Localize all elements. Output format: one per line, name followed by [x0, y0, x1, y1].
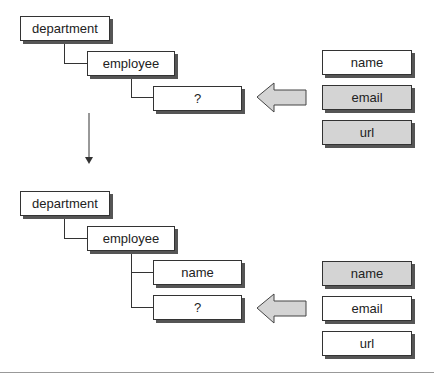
candidate-email: email — [322, 85, 412, 110]
tree-node-unknown: ? — [153, 295, 242, 320]
tree-node-name: name — [153, 260, 242, 285]
left-arrow-icon — [257, 83, 306, 112]
left-arrow-icon — [257, 294, 306, 323]
tree-node-department: department — [20, 191, 110, 216]
tree-node-employee: employee — [87, 51, 175, 76]
down-arrow-icon — [85, 113, 93, 164]
candidate-url: url — [322, 120, 412, 145]
candidate-url: url — [322, 331, 412, 356]
candidate-name: name — [322, 261, 412, 286]
candidate-name: name — [322, 50, 412, 75]
candidate-email: email — [322, 296, 412, 321]
tree-node-department: department — [20, 16, 110, 41]
tree-node-employee: employee — [87, 226, 175, 251]
divider — [0, 372, 434, 373]
tree-node-unknown: ? — [153, 86, 242, 111]
